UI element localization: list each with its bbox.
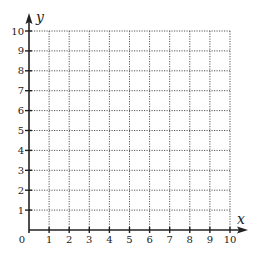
- x-tick-label: 7: [167, 234, 173, 245]
- y-tick-label: 6: [18, 105, 24, 116]
- x-tick-label: 1: [46, 234, 52, 245]
- y-tick-label: 4: [18, 145, 24, 156]
- origin-label: 0: [19, 234, 25, 245]
- x-tick-label: 6: [146, 234, 152, 245]
- x-tick-label: 9: [207, 234, 213, 245]
- x-tick-label: 5: [126, 234, 132, 245]
- x-tick-label: 2: [66, 234, 72, 245]
- x-tick-label: 8: [187, 234, 193, 245]
- y-tick-label: 9: [18, 45, 24, 56]
- y-tick-label: 7: [18, 85, 24, 96]
- y-tick-label: 3: [18, 165, 24, 176]
- y-tick-label: 10: [11, 26, 24, 37]
- x-tick-label: 10: [224, 234, 237, 245]
- x-tick-label: 3: [86, 234, 92, 245]
- y-tick-label: 8: [18, 65, 24, 76]
- y-tick-label: 5: [18, 125, 24, 136]
- x-tick-label: 4: [106, 234, 112, 245]
- coordinate-grid: 12345678910123456789100yx: [0, 0, 256, 260]
- y-axis-label: y: [35, 9, 45, 25]
- y-tick-label: 1: [18, 205, 24, 216]
- y-tick-label: 2: [18, 185, 24, 196]
- x-axis-label: x: [237, 211, 245, 227]
